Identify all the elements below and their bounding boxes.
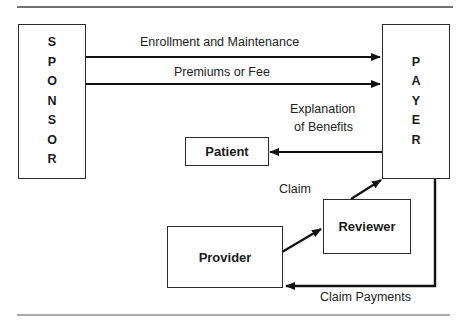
- sponsor-letter: S: [48, 111, 56, 131]
- patient-label: Patient: [205, 144, 248, 159]
- eob-label-line2: of Benefits: [294, 120, 353, 134]
- payer-box: P A Y E R: [382, 24, 450, 179]
- premiums-label: Premiums or Fee: [174, 65, 270, 79]
- payer-letter: Y: [412, 92, 420, 112]
- reviewer-box: Reviewer: [323, 199, 411, 254]
- reviewer-label: Reviewer: [338, 219, 395, 234]
- claim-label: Claim: [279, 182, 311, 196]
- payer-letter: A: [411, 72, 420, 92]
- sponsor-letter: N: [47, 92, 56, 112]
- claim-payments-label: Claim Payments: [320, 290, 411, 304]
- provider-to-reviewer-arrow: [282, 229, 321, 252]
- sponsor-letter: O: [47, 72, 57, 92]
- payer-letter: E: [412, 111, 420, 131]
- sponsor-letter: O: [47, 131, 57, 151]
- provider-label: Provider: [199, 250, 252, 265]
- patient-box: Patient: [185, 137, 269, 166]
- payer-letter: R: [411, 131, 420, 151]
- sponsor-letter: P: [48, 53, 56, 73]
- payer-letter: P: [412, 53, 420, 73]
- sponsor-box: S P O N S O R: [18, 24, 86, 179]
- sponsor-letter: S: [48, 33, 56, 53]
- enrollment-label: Enrollment and Maintenance: [140, 35, 299, 49]
- eob-label-line1: Explanation: [290, 102, 355, 116]
- sponsor-letter: R: [47, 150, 56, 170]
- reviewer-to-payer-arrow: [351, 180, 381, 199]
- provider-box: Provider: [167, 226, 283, 288]
